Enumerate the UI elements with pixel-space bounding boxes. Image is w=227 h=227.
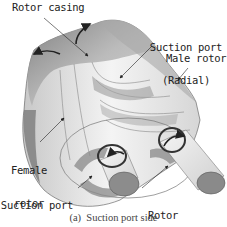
label-line: (Radial) [146,75,226,86]
screw-compressor-figure: Rotor casing Suction port (Radial) Male … [0,0,227,227]
label-line: Suction port [0,200,74,211]
label-male-rotor: Male rotor [166,53,226,64]
label-line: Female [4,165,54,176]
figure-caption: (a) Suction port side [0,212,227,223]
label-suction-port-radial: Suction port (Radial) [146,20,226,108]
label-rotor-casing: Rotor casing [12,2,84,13]
